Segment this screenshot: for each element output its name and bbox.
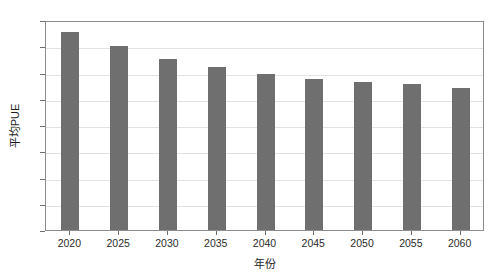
x-tick-label: 2035 <box>204 237 227 249</box>
x-tick-label: 2025 <box>106 237 129 249</box>
x-tick-mark <box>265 231 266 235</box>
y-axis-title-wrap: 平均PUE <box>2 21 26 231</box>
y-tick-mark <box>40 179 45 180</box>
x-tick-label: 2020 <box>58 237 81 249</box>
x-tick-label: 2060 <box>448 237 471 249</box>
x-tick-label: 2045 <box>302 237 325 249</box>
y-axis-title: 平均PUE <box>6 104 22 149</box>
x-tick-mark <box>460 231 461 235</box>
y-tick-mark <box>40 47 45 48</box>
y-tick-mark <box>40 21 45 22</box>
y-axis-tick-group: 00.20.40.60.81.01.21.41.6 <box>0 21 497 231</box>
x-tick-mark <box>216 231 217 235</box>
x-tick-mark <box>411 231 412 235</box>
y-tick-mark <box>40 100 45 101</box>
x-tick-mark <box>167 231 168 235</box>
bar-chart-figure: 00.20.40.60.81.01.21.41.6 平均PUE 20202025… <box>0 0 497 278</box>
y-tick-mark <box>40 205 45 206</box>
x-tick-mark <box>69 231 70 235</box>
x-tick-label: 2040 <box>253 237 276 249</box>
x-tick-mark <box>362 231 363 235</box>
x-tick-label: 2030 <box>155 237 178 249</box>
y-tick-mark <box>40 152 45 153</box>
y-tick-mark <box>40 126 45 127</box>
y-tick-mark <box>40 74 45 75</box>
x-tick-label: 2055 <box>399 237 422 249</box>
x-tick-mark <box>313 231 314 235</box>
x-tick-mark <box>118 231 119 235</box>
x-tick-label: 2050 <box>350 237 373 249</box>
x-axis-title: 年份 <box>45 255 484 271</box>
